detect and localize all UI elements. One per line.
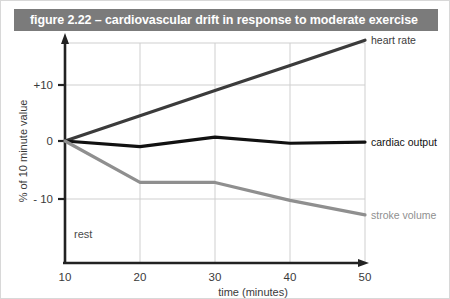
chart-plot-area: +10 0 - 10 10 20 30 40 50 time (minutes)… <box>1 31 450 299</box>
line-chart: +10 0 - 10 10 20 30 40 50 time (minutes)… <box>1 31 450 299</box>
y-axis-title: % of 10 minute value <box>17 100 29 203</box>
y-axis <box>58 33 69 263</box>
x-axis <box>63 259 369 267</box>
series-label-cardiac-output: cardiac output <box>371 136 437 148</box>
series-label-stroke-volume: stroke volume <box>371 209 437 221</box>
y-tick-label-zero: 0 <box>47 135 53 147</box>
series-label-heart-rate: heart rate <box>371 34 416 46</box>
y-tick-label-minus10: - 10 <box>33 193 53 205</box>
x-tick-label-20: 20 <box>134 271 147 283</box>
x-tick-label-30: 30 <box>209 271 222 283</box>
x-tick-label-50: 50 <box>359 271 372 283</box>
figure-title: figure 2.22 – cardiovascular drift in re… <box>14 13 418 27</box>
rest-annotation: rest <box>74 228 92 240</box>
x-tick-label-10: 10 <box>59 271 72 283</box>
x-axis-title: time (minutes) <box>218 286 288 298</box>
figure-container: figure 2.22 – cardiovascular drift in re… <box>0 0 450 299</box>
x-tick-label-40: 40 <box>284 271 297 283</box>
y-tick-label-plus10: +10 <box>33 79 53 91</box>
vertical-gridlines <box>140 43 365 263</box>
figure-title-bar: figure 2.22 – cardiovascular drift in re… <box>14 9 438 31</box>
